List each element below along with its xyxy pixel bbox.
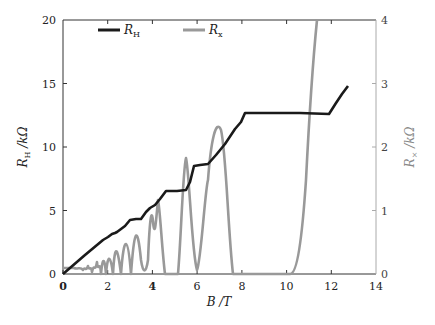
chart: 0 2 4 6 8 10 12 14 B /T 0 5 10 15 20 RH … [0, 0, 435, 325]
rx-series-line [63, 20, 317, 274]
y-left-tick-label: 10 [42, 141, 56, 154]
y-right-tick-label: 0 [381, 268, 388, 281]
y-right-axis-label: R× /kΩ [403, 127, 419, 169]
x-tick-label: 2 [104, 280, 111, 293]
y-axis-right: 0 1 2 3 4 R× /kΩ [372, 14, 419, 281]
x-tick-label: 12 [324, 280, 338, 293]
x-tick-label: 4 [149, 280, 157, 293]
x-tick-label: 8 [238, 280, 245, 293]
x-tick-label: 6 [194, 280, 201, 293]
x-axis-label: B /T [206, 295, 233, 309]
y-left-axis-label: RH /kΩ [16, 126, 32, 168]
y-left-tick-label: 20 [42, 14, 56, 27]
y-left-tick-label: 5 [49, 205, 56, 218]
y-axis-left: 0 5 10 15 20 RH /kΩ [16, 14, 67, 281]
x-tick-label: 14 [369, 280, 383, 293]
x-tick-label: 0 [59, 280, 67, 293]
legend-rh-label: RH [123, 23, 140, 39]
y-left-tick-label: 15 [42, 78, 56, 91]
x-tick-label: 10 [280, 280, 294, 293]
legend-rx-label: Rx [208, 23, 223, 39]
y-right-tick-label: 3 [381, 78, 388, 91]
y-right-tick-label: 4 [381, 14, 388, 27]
y-left-tick-label: 0 [49, 268, 56, 281]
legend: RH Rx [98, 23, 223, 39]
y-right-tick-label: 2 [381, 141, 388, 154]
y-right-tick-label: 1 [381, 205, 388, 218]
